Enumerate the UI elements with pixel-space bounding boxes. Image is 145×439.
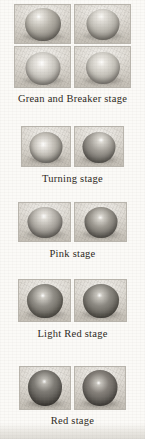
turning-panel-2 [74, 126, 124, 167]
tomato-fruit [86, 52, 120, 84]
stage-caption-light-red: Light Red stage [0, 327, 145, 340]
green-breaker-panel-3 [14, 46, 71, 88]
tomato-fruit [83, 370, 118, 406]
stage-caption-red: Red stage [0, 414, 145, 427]
panel-row [0, 126, 145, 167]
tomato-fruit [25, 8, 61, 41]
stage-caption-turning: Turning stage [0, 172, 145, 185]
panel-row [0, 202, 145, 242]
tomato-fruit [83, 132, 116, 163]
tomato-fruit [84, 207, 117, 238]
tomato-fruit [28, 370, 62, 406]
panel-row [0, 4, 145, 44]
stage-block-turning: Turning stage [0, 126, 145, 185]
pink-panel-2 [74, 202, 127, 242]
light-red-panel-2 [74, 279, 127, 322]
stage-block-red: Red stage [0, 366, 145, 427]
panel-row [0, 46, 145, 88]
light-red-panel-1 [18, 279, 71, 322]
green-breaker-panel-4 [74, 46, 131, 88]
tomato-fruit [27, 284, 63, 318]
stage-block-green-and-breaker: Grean and Breaker stage [0, 4, 145, 105]
tomato-fruit [25, 52, 60, 85]
tomato-fruit [27, 207, 62, 238]
red-panel-2 [74, 366, 126, 410]
panel-row [0, 279, 145, 322]
tomato-fruit [30, 132, 63, 163]
pink-panel-1 [18, 202, 71, 242]
green-breaker-panel-2 [74, 4, 131, 44]
turning-panel-1 [21, 126, 71, 167]
panel-row [0, 366, 145, 410]
stage-block-light-red: Light Red stage [0, 279, 145, 340]
stage-caption-green-and-breaker: Grean and Breaker stage [0, 92, 145, 105]
tomato-fruit [86, 9, 119, 40]
stage-block-pink: Pink stage [0, 202, 145, 260]
stage-caption-pink: Pink stage [0, 247, 145, 260]
red-panel-1 [19, 366, 71, 410]
tomato-fruit [83, 284, 119, 318]
figure-page: Grean and Breaker stage Turning stage [0, 0, 145, 439]
green-breaker-panel-1 [14, 4, 71, 44]
